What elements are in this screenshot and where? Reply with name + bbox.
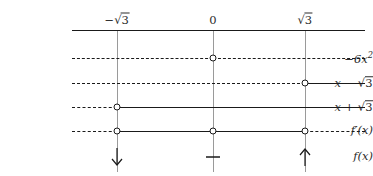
column-header-pos-sqrt3: √3 bbox=[297, 13, 312, 27]
behaviour-up-arrow-icon bbox=[297, 147, 314, 167]
behaviour-down-arrow-icon bbox=[109, 147, 126, 167]
zero-marker-row-f-prime-0 bbox=[114, 128, 121, 135]
behaviour-horizontal-dash-icon bbox=[205, 147, 222, 167]
segment-row-x-plus-sqrt3-negative-0 bbox=[72, 107, 117, 108]
zero-marker-row-f-prime-2 bbox=[302, 128, 309, 135]
segment-row-x-minus-sqrt3-negative-0 bbox=[72, 83, 305, 84]
zero-marker-row-f-prime-1 bbox=[210, 128, 217, 135]
segment-row-f-prime-negative-0 bbox=[72, 131, 117, 132]
row-label-row-f: f(x) bbox=[307, 151, 373, 163]
segment-row-f-prime-negative-2 bbox=[305, 131, 365, 132]
zero-marker-row-neg6x2-0 bbox=[210, 55, 217, 62]
sign-chart: −√30√3−6x2x − √3x + √3f′(x)f(x) bbox=[0, 0, 373, 176]
segment-row-x-minus-sqrt3-positive-1 bbox=[305, 83, 365, 84]
segment-row-x-plus-sqrt3-positive-1 bbox=[117, 107, 365, 108]
column-header-zero: 0 bbox=[209, 15, 216, 27]
segment-row-neg6x2-negative-1 bbox=[213, 58, 365, 59]
zero-marker-row-x-plus-sqrt3-0 bbox=[114, 104, 121, 111]
top-axis bbox=[72, 30, 365, 31]
column-header-neg-sqrt3: −√3 bbox=[105, 13, 130, 27]
zero-marker-row-x-minus-sqrt3-0 bbox=[302, 80, 309, 87]
segment-row-neg6x2-negative-0 bbox=[72, 58, 213, 59]
